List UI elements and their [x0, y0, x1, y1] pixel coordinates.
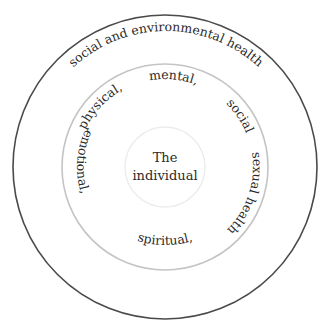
outer-ring [13, 15, 317, 319]
health-model-diagram: social and environmental health physical… [0, 0, 329, 333]
center-label-line1: The [153, 150, 178, 165]
outer-ring-label: social and environmental health [65, 19, 266, 70]
inner-circle [125, 127, 205, 207]
center-label-line2: individual [132, 168, 197, 183]
label-spiritual: spiritual, [136, 229, 194, 248]
label-social: social [224, 95, 258, 135]
label-emotional: emotional, [74, 128, 96, 195]
label-sexual-health: sexual health [225, 151, 266, 238]
label-mental: mental, [148, 67, 200, 88]
